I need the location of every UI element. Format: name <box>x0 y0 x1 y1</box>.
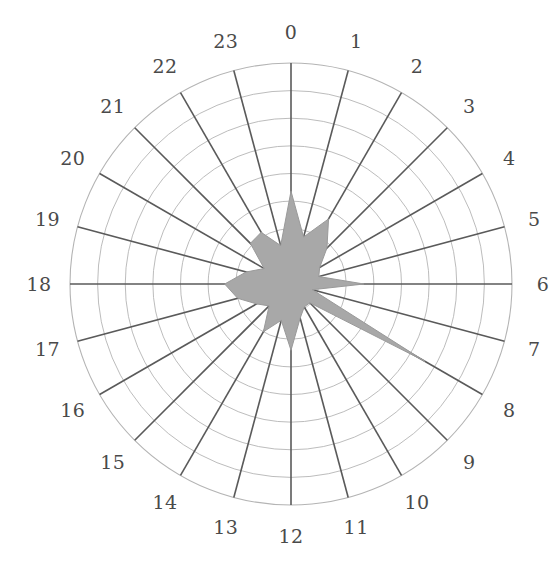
polar-chart-canvas <box>0 0 550 566</box>
angular-tick-label-2: 2 <box>411 56 424 75</box>
grid-spoke <box>291 284 504 341</box>
angular-tick-label-17: 17 <box>35 340 60 359</box>
angular-tick-label-21: 21 <box>100 96 125 115</box>
angular-tick-label-6: 6 <box>537 275 550 294</box>
grid-spoke <box>291 284 447 440</box>
angular-tick-label-23: 23 <box>213 31 238 50</box>
angular-tick-label-10: 10 <box>404 493 429 512</box>
angular-tick-label-18: 18 <box>26 275 51 294</box>
grid-spoke <box>135 284 291 440</box>
angular-tick-label-4: 4 <box>503 149 516 168</box>
angular-tick-label-20: 20 <box>60 149 85 168</box>
angular-tick-label-5: 5 <box>528 209 541 228</box>
angular-tick-label-11: 11 <box>344 518 369 537</box>
angular-tick-label-15: 15 <box>100 453 125 472</box>
angular-tick-label-1: 1 <box>350 31 363 50</box>
angular-tick-label-9: 9 <box>463 453 476 472</box>
angular-tick-label-12: 12 <box>278 527 303 546</box>
data-polygon <box>225 191 425 361</box>
angular-tick-label-22: 22 <box>152 56 177 75</box>
angular-tick-label-7: 7 <box>528 340 541 359</box>
angular-tick-label-19: 19 <box>35 209 60 228</box>
angular-tick-label-13: 13 <box>213 518 238 537</box>
grid-spoke <box>100 174 291 285</box>
angular-tick-label-0: 0 <box>285 23 298 42</box>
data-series-polygon <box>225 191 425 361</box>
angular-tick-label-16: 16 <box>60 401 85 420</box>
angular-tick-label-14: 14 <box>152 493 177 512</box>
angular-tick-label-3: 3 <box>463 96 476 115</box>
polar-chart: 01234567891011121314151617181920212223 <box>0 0 550 566</box>
angular-tick-label-8: 8 <box>503 401 516 420</box>
